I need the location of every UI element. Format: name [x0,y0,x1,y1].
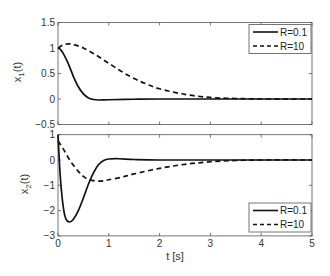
y-axis-label-x1: x1(t) [11,62,26,82]
y-tick-label: −2 [44,205,56,216]
y-tick-label: −3 [44,230,56,241]
plot-x1: 1.510.50−0.5 x1(t) R=0.1 R=10 [11,17,312,130]
y-tick-label: −1 [44,180,56,191]
y-tick-label: 0 [49,155,55,166]
legend-bottom: R=0.1 R=10 [249,203,311,232]
legend-top: R=0.1 R=10 [249,25,311,54]
legend-label: R=10 [280,41,305,52]
plot-x2: 01234510−1−2−3 x2(t) R=0.1 R=10 t [s] [18,129,315,262]
legend-label: R=0.1 [280,205,307,216]
y-tick-label: 0.5 [41,68,55,79]
x-axis-label: t [s] [166,250,184,262]
legend-label: R=0.1 [280,27,307,38]
y-tick-label: 1 [49,43,55,54]
y-tick-label: 1 [49,129,55,140]
x-tick-label: 4 [258,238,264,249]
y-tick-label: 0 [49,94,55,105]
legend-label: R=10 [280,219,305,230]
x-tick-label: 2 [157,238,163,249]
x-tick-label: 3 [208,238,214,249]
x-tick-label: 0 [55,238,61,249]
x-tick-label: 1 [106,238,112,249]
y-axis-label-x2: x2(t) [18,174,33,194]
figure: 1.510.50−0.5 x1(t) R=0.1 R=10 01234510−1… [0,0,330,276]
x-tick-label: 5 [309,238,315,249]
y-tick-label: 1.5 [41,17,55,28]
